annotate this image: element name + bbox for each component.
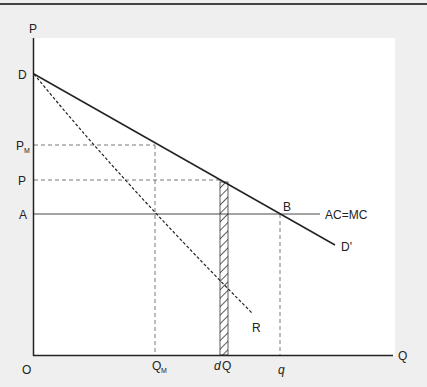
mr-label: R: [252, 321, 261, 335]
y-label-pm: P: [16, 139, 24, 153]
demand-line: [34, 74, 335, 245]
x-axis-label: Q: [398, 349, 407, 363]
x-label-q: q: [278, 363, 285, 377]
x-label-dq-q: Q: [222, 359, 231, 373]
x-label-qm-sub: M: [161, 367, 167, 374]
y-label-p: P: [18, 174, 26, 188]
y-label-pm-sub: M: [24, 147, 30, 154]
point-b-label: B: [283, 200, 291, 214]
x-label-dq-d: d: [214, 359, 221, 373]
marginal-revenue-curve: [34, 74, 252, 313]
y-label-a: A: [19, 208, 27, 222]
origin-label: O: [22, 363, 31, 377]
demand-label: D': [341, 240, 352, 254]
monopoly-diagram: P Q O D P M P A Q M d Q q B AC=MC D' R: [0, 0, 427, 387]
ac-mc-label: AC=MC: [325, 208, 368, 222]
dq-strip: [220, 182, 228, 355]
y-axis-label: P: [29, 22, 37, 36]
x-label-qm: Q: [152, 359, 161, 373]
y-label-d: D: [18, 68, 27, 82]
